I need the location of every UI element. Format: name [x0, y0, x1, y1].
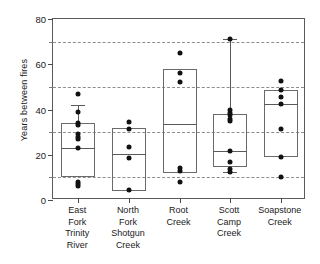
data-point [126, 126, 131, 131]
x-tick-3 [230, 198, 231, 203]
boxplot-figure: Years between fires 020406080 EastForkTr… [0, 0, 320, 264]
gridline-70 [53, 42, 304, 43]
data-point [278, 88, 283, 93]
data-point [177, 50, 182, 55]
y-axis-title: Years between fires [19, 30, 29, 170]
y-tick-label-0: 0 [41, 195, 46, 206]
median-line-2 [163, 124, 197, 125]
data-point [76, 184, 81, 189]
data-point [177, 80, 182, 85]
y-tick-60 [48, 64, 53, 65]
data-point [177, 71, 182, 76]
data-point [177, 168, 182, 173]
y-tick-label-20: 20 [35, 149, 46, 160]
data-point [126, 156, 131, 161]
data-point [228, 169, 233, 174]
y-tick-minor-10 [49, 177, 53, 178]
whisker-cap-upper-0 [71, 105, 85, 106]
plot-area: 020406080 [52, 18, 305, 199]
x-tick-1 [129, 198, 130, 203]
data-point [126, 119, 131, 124]
data-point [76, 123, 81, 128]
y-tick-label-80: 80 [35, 14, 46, 25]
x-tick-0 [78, 198, 79, 203]
y-tick-minor-30 [49, 132, 53, 133]
y-tick-minor-50 [49, 87, 53, 88]
y-tick-label-60: 60 [35, 59, 46, 70]
data-point [76, 145, 81, 150]
gridline-10 [53, 177, 304, 178]
data-point [76, 109, 81, 114]
box-4 [264, 90, 298, 157]
data-point [126, 187, 131, 192]
data-point [278, 175, 283, 180]
y-tick-minor-70 [49, 42, 53, 43]
y-tick-40 [48, 110, 53, 111]
data-point [76, 91, 81, 96]
x-tick-4 [281, 198, 282, 203]
data-point [278, 95, 283, 100]
data-point [228, 118, 233, 123]
data-point [228, 149, 233, 154]
y-tick-20 [48, 155, 53, 156]
data-point [228, 37, 233, 42]
x-category-label-4: SoapstoneCreek [247, 205, 313, 228]
data-point [278, 101, 283, 106]
y-tick-label-40: 40 [35, 104, 46, 115]
data-point [228, 159, 233, 164]
median-line-1 [112, 154, 146, 155]
data-point [278, 155, 283, 160]
data-point [126, 144, 131, 149]
data-point [76, 136, 81, 141]
data-point [278, 79, 283, 84]
y-tick-80 [48, 19, 53, 20]
x-tick-2 [180, 198, 181, 203]
data-point [177, 179, 182, 184]
y-tick-0 [48, 200, 53, 201]
data-point [278, 126, 283, 131]
whisker-upper-3 [230, 39, 231, 114]
